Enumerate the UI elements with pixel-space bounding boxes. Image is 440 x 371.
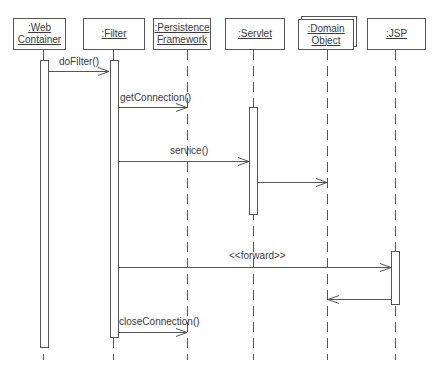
- activation-servlet: [250, 108, 258, 215]
- message-label-dofilter: doFilter(): [59, 56, 99, 68]
- activation-web-container: [41, 61, 49, 348]
- participant-label: :Servlet: [238, 28, 272, 40]
- activation-filter: [111, 61, 119, 338]
- participant-web-container: :Web Container: [13, 18, 66, 50]
- participant-persistence-framework: :Persistence Framework: [153, 18, 211, 50]
- message-label-forward: <<forward>>: [229, 250, 286, 262]
- participant-label: :Web: [28, 22, 51, 34]
- activation-jsp: [392, 252, 400, 305]
- participant-servlet: :Servlet: [225, 18, 285, 50]
- message-label-getconnection: getConnection(): [120, 92, 191, 104]
- participant-label: Framework: [157, 34, 207, 46]
- participant-domain-object: :Domain Object: [298, 19, 354, 50]
- participant-label: :Filter: [102, 28, 127, 40]
- message-label-closeconnection: closeConnection(): [119, 316, 200, 328]
- participant-jsp: :JSP: [367, 18, 426, 50]
- participant-label: :Persistence: [154, 22, 209, 34]
- participant-filter: :Filter: [83, 18, 145, 50]
- message-label-service: service(): [170, 145, 208, 157]
- participant-label: :Domain: [307, 23, 344, 35]
- participant-label: :JSP: [386, 28, 407, 40]
- participant-label: Container: [18, 34, 61, 46]
- participant-label: Object: [312, 35, 341, 47]
